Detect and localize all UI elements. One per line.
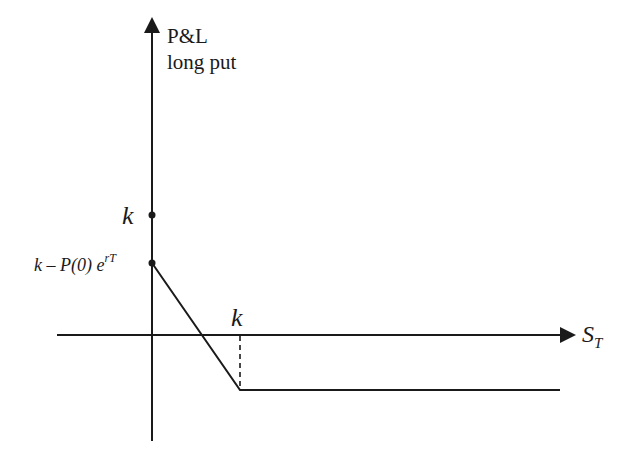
x-axis-label: ST <box>582 321 602 352</box>
payoff-diagram: P&L long put k k – P(0) erT k ST <box>0 0 640 461</box>
y-intercept-label: k – P(0) erT <box>34 251 116 276</box>
x-axis-label-main: S <box>582 321 594 347</box>
x-axis-label-subscript: T <box>594 335 602 351</box>
y-axis-label-long-put: long put <box>167 50 236 75</box>
x-axis-arrow-icon <box>560 327 576 343</box>
y-tick-k-label: k <box>122 201 134 231</box>
y-axis-label-pl: P&L <box>167 24 208 49</box>
y-axis-arrow-icon <box>144 17 160 33</box>
k-point-marker <box>149 212 156 219</box>
diagram-canvas <box>0 0 640 461</box>
y-intercept-label-exponent: rT <box>104 251 115 265</box>
x-tick-k-label: k <box>231 303 243 333</box>
intercept-point-marker <box>149 260 156 267</box>
payoff-line <box>152 263 560 390</box>
y-intercept-label-text: k – P(0) e <box>34 255 104 275</box>
